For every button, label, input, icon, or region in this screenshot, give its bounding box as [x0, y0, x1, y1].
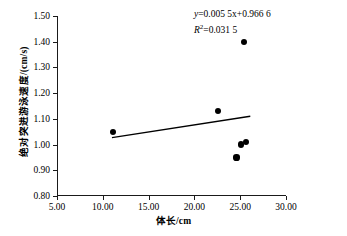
y-tick-label: 1.30: [33, 62, 50, 72]
x-tick-mark: [149, 196, 150, 200]
data-point: [241, 39, 247, 45]
x-tick-label: 10.00: [92, 202, 113, 212]
x-tick-label: 5.00: [49, 202, 66, 212]
x-tick-label: 20.00: [184, 202, 205, 212]
x-tick-mark: [57, 196, 58, 200]
y-tick-label: 1.20: [33, 88, 50, 98]
x-axis-title: 体长/cm: [0, 213, 347, 227]
y-tick-label: 1.00: [33, 140, 50, 150]
data-point: [243, 139, 249, 145]
trend-line: [57, 16, 286, 196]
y-tick-label: 1.10: [33, 114, 50, 124]
x-tick-label: 30.00: [275, 202, 296, 212]
scatter-chart-figure: 绝对突进游泳速度/(cm/s) 体长/cm y=0.005 5x+0.966 6…: [0, 0, 347, 236]
y-tick-label: 1.50: [33, 11, 50, 21]
x-tick-mark: [286, 196, 287, 200]
y-tick-label: 0.90: [33, 165, 50, 175]
x-tick-mark: [103, 196, 104, 200]
plot-area: 0.800.901.001.101.201.301.401.50 5.0010.…: [57, 16, 286, 196]
y-axis-title: 绝对突进游泳速度/(cm/s): [19, 12, 30, 192]
y-tick-label: 0.80: [33, 191, 50, 201]
x-tick-mark: [240, 196, 241, 200]
data-point: [233, 154, 239, 160]
x-tick-label: 15.00: [138, 202, 159, 212]
y-tick-label: 1.40: [33, 37, 50, 47]
data-point: [110, 129, 116, 135]
x-tick-label: 25.00: [230, 202, 251, 212]
x-tick-mark: [194, 196, 195, 200]
